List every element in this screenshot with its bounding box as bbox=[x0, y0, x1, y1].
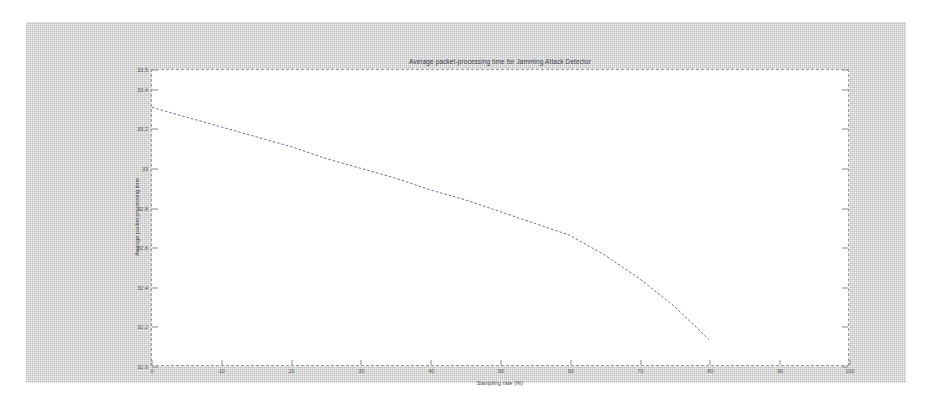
y-tick-mark bbox=[842, 327, 848, 328]
y-tick-mark bbox=[842, 89, 848, 90]
y-tick-mark bbox=[152, 208, 158, 209]
y-axis-label: Average packet processing time bbox=[134, 178, 140, 256]
y-tick-mark bbox=[842, 169, 848, 170]
x-tick-label: 90 bbox=[777, 368, 783, 374]
y-tick-label: 33 bbox=[142, 166, 148, 172]
x-axis-label: Sampling rate (%) bbox=[151, 380, 849, 386]
y-tick-mark bbox=[842, 70, 848, 71]
x-tick-mark bbox=[221, 360, 222, 365]
x-tick-label: 40 bbox=[428, 368, 434, 374]
x-tick-mark bbox=[152, 360, 153, 365]
plot-axes: 32.032.232.432.632.83333.233.433.5 01020… bbox=[151, 69, 849, 366]
y-tick-mark bbox=[842, 287, 848, 288]
x-tick-mark bbox=[710, 360, 711, 365]
y-tick-label: 32.4 bbox=[137, 285, 148, 291]
x-tick-label: 80 bbox=[707, 368, 713, 374]
data-series-line bbox=[152, 70, 848, 365]
y-tick-label: 33.2 bbox=[137, 126, 148, 132]
y-tick-mark bbox=[152, 70, 158, 71]
x-tick-mark bbox=[570, 360, 571, 365]
matlab-figure-window: Average packet-processing time for Jammi… bbox=[26, 22, 906, 383]
y-tick-mark bbox=[842, 208, 848, 209]
y-tick-mark bbox=[152, 89, 158, 90]
y-tick-label: 33.4 bbox=[137, 87, 148, 93]
x-tick-label: 50 bbox=[498, 368, 504, 374]
y-tick-mark bbox=[152, 327, 158, 328]
x-tick-label: 100 bbox=[845, 368, 854, 374]
y-tick-label: 33.5 bbox=[137, 67, 148, 73]
y-tick-mark bbox=[152, 129, 158, 130]
x-tick-mark bbox=[291, 360, 292, 365]
x-tick-label: 60 bbox=[568, 368, 574, 374]
x-tick-label: 20 bbox=[289, 368, 295, 374]
x-tick-label: 10 bbox=[219, 368, 225, 374]
x-tick-mark bbox=[501, 360, 502, 365]
x-tick-mark bbox=[361, 360, 362, 365]
chart-title: Average packet-processing time for Jammi… bbox=[151, 58, 849, 65]
x-tick-mark bbox=[780, 360, 781, 365]
x-tick-label: 0 bbox=[150, 368, 153, 374]
screenshot-root: Average packet-processing time for Jammi… bbox=[0, 0, 932, 406]
y-tick-mark bbox=[842, 129, 848, 130]
y-tick-mark bbox=[152, 169, 158, 170]
y-tick-label: 32.2 bbox=[137, 324, 148, 330]
x-tick-mark bbox=[640, 360, 641, 365]
y-tick-label: 32.0 bbox=[137, 364, 148, 370]
y-tick-mark bbox=[842, 248, 848, 249]
y-tick-mark bbox=[152, 287, 158, 288]
series-polyline bbox=[152, 107, 709, 339]
plot-area bbox=[152, 70, 848, 365]
x-tick-mark bbox=[850, 360, 851, 365]
x-tick-label: 30 bbox=[358, 368, 364, 374]
x-tick-mark bbox=[431, 360, 432, 365]
x-tick-label: 70 bbox=[638, 368, 644, 374]
y-tick-mark bbox=[152, 248, 158, 249]
